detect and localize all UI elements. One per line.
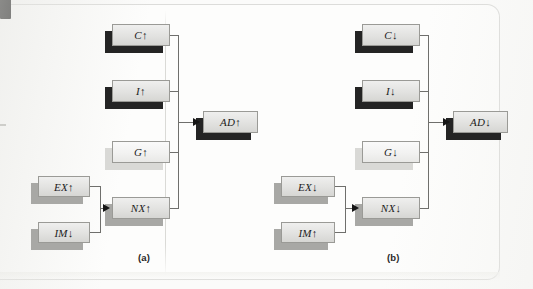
- node-i-down[interactable]: I↓: [362, 80, 420, 102]
- panel-b: C↓ I↓ G↓ NX↓ EX↓ IM↑ AD↓ (b): [252, 0, 533, 289]
- node-label: EX↓: [298, 181, 318, 193]
- node-im-up[interactable]: IM↑: [281, 222, 335, 243]
- connector-bus-to-nx: [345, 208, 352, 209]
- node-label: IM↑: [298, 227, 317, 239]
- node-label: AD↓: [470, 116, 491, 128]
- node-label: IM↓: [54, 227, 73, 239]
- node-ad-up[interactable]: AD↑: [203, 111, 258, 133]
- node-c-down[interactable]: C↓: [362, 24, 420, 46]
- node-nx-down[interactable]: NX↓: [362, 197, 420, 219]
- node-g-up[interactable]: G↑: [112, 141, 170, 163]
- node-label: G↑: [134, 146, 148, 158]
- node-im-down[interactable]: IM↓: [38, 222, 90, 243]
- arrow-into-ad: [443, 118, 450, 126]
- node-label: NX↓: [381, 202, 401, 214]
- node-label: I↑: [136, 85, 146, 97]
- caption-panel-b: (b): [387, 252, 400, 263]
- panel-a: C↑ I↑ G↑ NX↑ EX↑ IM↓ AD↑ (a): [0, 0, 266, 289]
- node-g-down[interactable]: G↓: [362, 141, 420, 163]
- node-label: G↓: [384, 146, 398, 158]
- node-label: NX↑: [131, 202, 151, 214]
- node-label: C↑: [134, 29, 147, 41]
- node-nx-up[interactable]: NX↑: [112, 197, 170, 219]
- arrow-into-nx: [352, 204, 359, 212]
- node-label: C↓: [384, 29, 397, 41]
- node-i-up[interactable]: I↑: [112, 80, 170, 102]
- connector-nx-bus: [345, 186, 346, 233]
- node-c-up[interactable]: C↑: [112, 24, 170, 46]
- node-label: AD↑: [220, 116, 241, 128]
- node-label: I↓: [386, 85, 396, 97]
- node-ex-up[interactable]: EX↑: [38, 176, 90, 197]
- arrow-into-ad: [193, 118, 200, 126]
- node-label: EX↑: [54, 181, 74, 193]
- arrow-into-nx: [103, 204, 110, 212]
- caption-panel-a: (a): [138, 252, 150, 263]
- connector-nx-bus: [100, 186, 101, 233]
- node-ex-down[interactable]: EX↓: [281, 176, 335, 197]
- node-ad-down[interactable]: AD↓: [453, 111, 508, 133]
